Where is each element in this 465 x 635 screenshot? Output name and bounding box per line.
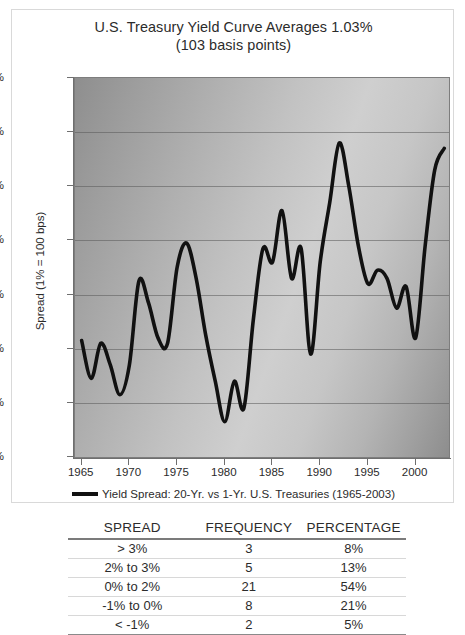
table-row: > 3%38% (68, 539, 406, 559)
table-row: 2% to 3%513% (68, 559, 406, 578)
chart-title-line-2: (103 basis points) (12, 36, 455, 54)
table-cell-percentage: 13% (301, 559, 406, 578)
table-cell-frequency: 21 (196, 578, 301, 597)
yield-spread-line (75, 78, 449, 457)
x-tick-label-2000: 2000 (390, 466, 440, 478)
table-row: 0% to 2%2154% (68, 578, 406, 597)
legend-label: Yield Spread: 20-Yr. vs 1-Yr. U.S. Treas… (102, 488, 395, 500)
x-tick-label-1975: 1975 (151, 466, 201, 478)
x-tick-mark (81, 459, 82, 465)
table-cell-percentage: 8% (301, 539, 406, 559)
x-tick-mark (224, 459, 225, 465)
chart-legend: Yield Spread: 20-Yr. vs 1-Yr. U.S. Treas… (12, 488, 455, 500)
x-tick-mark (176, 459, 177, 465)
x-axis-line (73, 458, 451, 459)
chart-title: U.S. Treasury Yield Curve Averages 1.03%… (12, 18, 455, 54)
x-tick-label-1965: 1965 (56, 466, 106, 478)
x-tick-label-1985: 1985 (246, 466, 296, 478)
column-header-frequency: FREQUENCY (196, 519, 301, 539)
chart-card: U.S. Treasury Yield Curve Averages 1.03%… (11, 9, 454, 503)
table-header-row: SPREAD FREQUENCY PERCENTAGE (68, 519, 406, 539)
table-cell-spread: 2% to 3% (68, 559, 196, 578)
column-header-spread: SPREAD (68, 519, 196, 539)
table-cell-percentage: 54% (301, 578, 406, 597)
table-cell-spread: -1% to 0% (68, 597, 196, 616)
chart-title-line-1: U.S. Treasury Yield Curve Averages 1.03% (94, 19, 372, 35)
x-tick-mark (271, 459, 272, 465)
table-cell-percentage: 5% (301, 616, 406, 635)
y-tick-label--1: -1% (0, 396, 4, 408)
table-row: < -1%25% (68, 616, 406, 635)
legend-swatch-icon (72, 492, 98, 496)
table-cell-frequency: 3 (196, 539, 301, 559)
table-row: -1% to 0%821% (68, 597, 406, 616)
y-axis-label: Spread (1% = 100 bps) (34, 176, 46, 366)
y-tick-label-5: 5% (0, 71, 4, 83)
x-tick-mark (367, 459, 368, 465)
x-tick-label-1990: 1990 (294, 466, 344, 478)
x-tick-mark (319, 459, 320, 465)
y-tick-label--2: -2% (0, 450, 4, 462)
x-tick-label-1970: 1970 (103, 466, 153, 478)
frequency-table-wrapper: SPREAD FREQUENCY PERCENTAGE > 3%38%2% to… (68, 519, 406, 635)
table-cell-spread: < -1% (68, 616, 196, 635)
column-header-percentage: PERCENTAGE (301, 519, 406, 539)
y-tick-label-2: 2% (0, 233, 4, 245)
table-cell-percentage: 21% (301, 597, 406, 616)
table-body: > 3%38%2% to 3%513%0% to 2%2154%-1% to 0… (68, 539, 406, 635)
table-cell-spread: 0% to 2% (68, 578, 196, 597)
y-tick-label-4: 4% (0, 125, 4, 137)
y-tick-label-0: 0% (0, 342, 4, 354)
plot-inner (75, 78, 449, 457)
table-cell-frequency: 8 (196, 597, 301, 616)
x-tick-label-1980: 1980 (199, 466, 249, 478)
y-tick-label-1: 1% (0, 288, 4, 300)
frequency-table: SPREAD FREQUENCY PERCENTAGE > 3%38%2% to… (68, 519, 406, 635)
x-tick-label-1995: 1995 (342, 466, 392, 478)
table-cell-spread: > 3% (68, 539, 196, 559)
y-tick-label-3: 3% (0, 179, 4, 191)
table-cell-frequency: 5 (196, 559, 301, 578)
x-tick-mark (128, 459, 129, 465)
plot-area (74, 77, 450, 458)
table-cell-frequency: 2 (196, 616, 301, 635)
x-tick-mark (415, 459, 416, 465)
